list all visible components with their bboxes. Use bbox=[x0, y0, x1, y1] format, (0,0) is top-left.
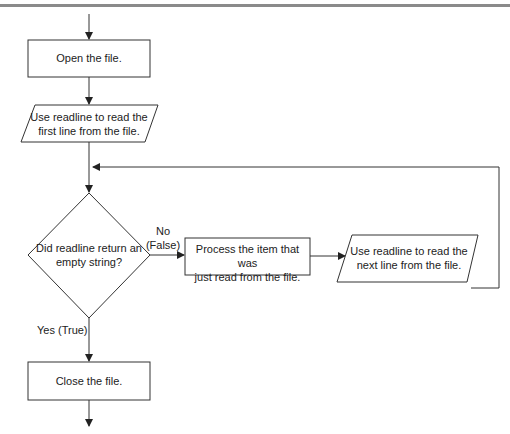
yes-true-label: Yes (True) bbox=[37, 323, 97, 337]
open-file-text: Open the file. bbox=[56, 52, 121, 64]
false-text: (False) bbox=[143, 238, 183, 252]
process-item-text-2: just read from the file. bbox=[185, 270, 310, 284]
yes-text: Yes (True) bbox=[37, 324, 88, 336]
read-first-line-label: Use readline to read the first line from… bbox=[24, 110, 154, 138]
read-next-line-label: Use readline to read the next line from … bbox=[345, 244, 473, 272]
process-item-label: Process the item that was just read from… bbox=[185, 242, 310, 284]
read-next-line-text-2: next line from the file. bbox=[345, 258, 473, 272]
no-text: No bbox=[143, 224, 183, 238]
read-first-line-text-1: Use readline to read the bbox=[24, 110, 154, 124]
open-file-label: Open the file. bbox=[28, 51, 150, 65]
flowchart-canvas bbox=[0, 0, 510, 434]
decision-text-2: empty string? bbox=[30, 255, 148, 269]
close-file-text: Close the file. bbox=[56, 375, 123, 387]
decision-label: Did readline return an empty string? bbox=[30, 241, 148, 269]
read-next-line-text-1: Use readline to read the bbox=[345, 244, 473, 258]
read-first-line-text-2: first line from the file. bbox=[24, 124, 154, 138]
process-item-text-1: Process the item that was bbox=[185, 242, 310, 270]
decision-text-1: Did readline return an bbox=[30, 241, 148, 255]
close-file-label: Close the file. bbox=[28, 374, 150, 388]
no-false-label: No (False) bbox=[143, 224, 183, 252]
